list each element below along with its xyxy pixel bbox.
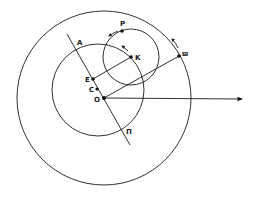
label-K: K bbox=[135, 54, 141, 62]
line-E-K bbox=[93, 57, 131, 79]
point-P bbox=[120, 29, 124, 33]
line-O-varpi bbox=[104, 56, 179, 98]
label-Pi: Π bbox=[126, 128, 132, 136]
point-C bbox=[95, 87, 98, 90]
label-O: O bbox=[94, 96, 100, 104]
point-varpi bbox=[177, 54, 181, 58]
point-O bbox=[102, 96, 106, 100]
label-varpi: ϖ bbox=[182, 50, 188, 58]
motion-arrow-varpi bbox=[172, 39, 178, 48]
diagram-canvas: O C E K P ϖ A Π bbox=[0, 0, 257, 197]
point-E bbox=[91, 77, 95, 81]
motion-arrow-K bbox=[122, 46, 128, 51]
label-P: P bbox=[120, 20, 125, 28]
label-A: A bbox=[77, 39, 83, 47]
reference-direction-arrow bbox=[104, 98, 242, 99]
label-E: E bbox=[85, 76, 90, 84]
label-C: C bbox=[89, 86, 94, 94]
point-K bbox=[129, 55, 133, 59]
